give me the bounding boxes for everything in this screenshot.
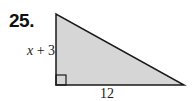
triangle-shape xyxy=(56,14,184,85)
horizontal-leg-label: 12 xyxy=(100,86,114,101)
right-triangle-figure: x + 3 12 xyxy=(0,0,193,101)
vertical-leg-label: x + 3 xyxy=(26,43,55,58)
